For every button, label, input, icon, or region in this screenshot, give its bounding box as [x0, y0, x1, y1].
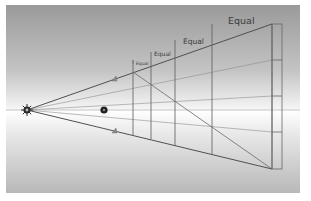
equal-label-4: Equal	[228, 15, 255, 26]
upper-arrow-marker-icon	[112, 76, 117, 81]
eye-point-dot-icon	[100, 106, 107, 113]
perspective-diagram: Equal Equal Equal Equal	[0, 0, 311, 201]
converging-lines	[27, 24, 272, 169]
guide-lines	[27, 60, 272, 132]
vanishing-point-sun-icon	[21, 104, 33, 116]
equal-label-2: Equal	[154, 50, 171, 58]
equal-label-3: Equal	[183, 37, 204, 46]
equal-label-1: Equal	[136, 61, 149, 66]
measure-ruler	[272, 24, 282, 169]
diagonal-line	[133, 72, 272, 169]
